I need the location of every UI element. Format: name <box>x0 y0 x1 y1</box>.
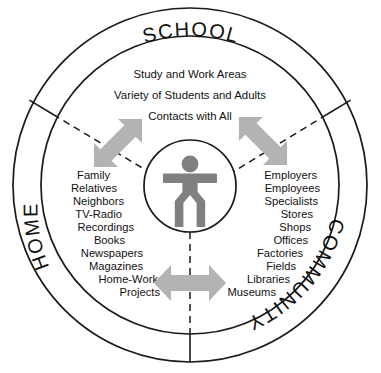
community-item-9: Museums <box>228 286 277 298</box>
community-item-4: Shops <box>279 221 311 233</box>
home-item-8: Home-Work <box>99 273 159 285</box>
home-item-2: Neighbors <box>73 195 124 207</box>
home-item-0: Family <box>77 169 110 181</box>
community-item-6: Factories <box>257 247 303 259</box>
school-line-1: Study and Work Areas <box>133 68 246 80</box>
community-item-3: Stores <box>281 208 314 220</box>
diagram-canvas: SCHOOL HOME COMMUNITY Study and Work Are… <box>0 0 381 373</box>
home-item-9: Projects <box>120 286 161 298</box>
community-item-0: Employers <box>264 169 317 181</box>
community-item-1: Employees <box>265 182 321 194</box>
school-line-3: Contacts with All <box>148 110 232 122</box>
school-line-2: Variety of Students and Adults <box>114 89 266 101</box>
community-item-2: Specialists <box>265 195 319 207</box>
home-item-4: Recordings <box>77 221 134 233</box>
community-item-8: Libraries <box>247 273 290 285</box>
home-item-6: Newspapers <box>81 247 144 259</box>
community-item-5: Offices <box>273 234 308 246</box>
home-item-1: Relatives <box>71 182 117 194</box>
home-item-7: Magazines <box>89 260 144 272</box>
home-item-3: TV-Radio <box>75 208 122 220</box>
community-item-7: Fields <box>266 260 296 272</box>
home-item-5: Books <box>94 234 125 246</box>
concentric-circles-diagram: SCHOOL HOME COMMUNITY Study and Work Are… <box>0 0 381 373</box>
